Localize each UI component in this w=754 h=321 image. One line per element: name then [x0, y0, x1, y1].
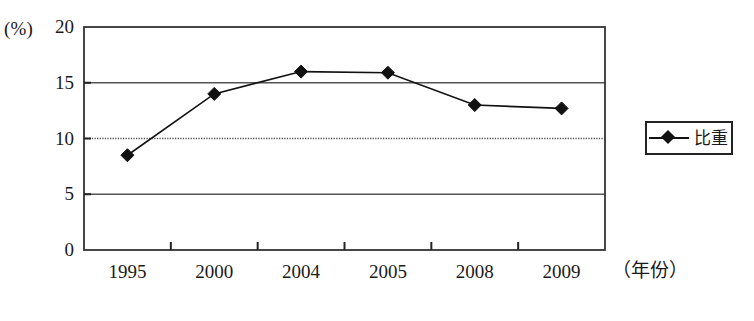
- series-line-bizhong: [127, 72, 561, 156]
- legend-label: 比重: [691, 130, 730, 147]
- y-axis-tick-marks: [84, 83, 91, 195]
- line-chart: (%) 05101520 199520002004200520082009 （年…: [0, 0, 754, 321]
- legend-marker: [649, 131, 689, 145]
- legend: 比重: [645, 121, 733, 155]
- gridlines: [84, 83, 605, 195]
- legend-diamond-icon: [660, 130, 674, 144]
- x-axis-tick-marks: [171, 242, 518, 250]
- plot-area: [0, 0, 754, 321]
